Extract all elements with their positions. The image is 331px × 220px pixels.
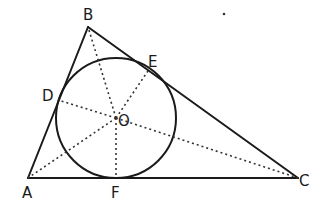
label-d: D	[42, 87, 54, 105]
incircle-triangle-diagram: A B C D E F O	[0, 0, 331, 220]
label-f: F	[111, 184, 120, 202]
segment-oc	[116, 118, 298, 178]
stray-mark	[223, 13, 226, 16]
segment-od	[58, 100, 116, 118]
label-b: B	[83, 6, 93, 24]
label-o: O	[118, 112, 130, 130]
segment-oe	[116, 68, 150, 118]
label-e: E	[148, 53, 157, 71]
label-c: C	[299, 172, 309, 190]
side-bc	[88, 27, 298, 178]
segment-oa	[28, 118, 116, 178]
label-a: A	[22, 184, 33, 202]
segment-ob	[88, 27, 116, 118]
